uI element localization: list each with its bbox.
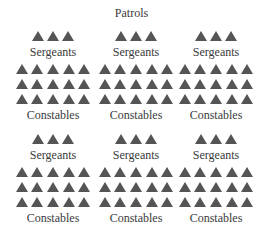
triangle-icon (210, 64, 222, 74)
patrol-group: SergeantsConstables (176, 31, 256, 121)
constables-label: Constables (176, 109, 256, 121)
sergeants-row (13, 134, 93, 145)
triangle-icon (16, 79, 28, 89)
constables-row (96, 167, 176, 178)
triangle-icon (31, 94, 43, 104)
triangle-icon (130, 134, 142, 144)
sergeants-row (176, 31, 256, 42)
triangle-icon (47, 31, 59, 41)
patrol-group: SergeantsConstables (13, 31, 93, 121)
triangle-icon (31, 79, 43, 89)
triangle-icon (47, 94, 59, 104)
triangle-icon (241, 167, 253, 177)
triangle-icon (63, 182, 75, 192)
constables-label: Constables (96, 212, 176, 224)
triangle-icon (47, 64, 59, 74)
triangle-icon (114, 79, 126, 89)
constables-row (96, 79, 176, 90)
triangle-icon (210, 79, 222, 89)
sergeants-row (96, 31, 176, 42)
constables-block (13, 64, 93, 105)
triangle-icon (146, 79, 158, 89)
sergeants-row (13, 31, 93, 42)
constables-row (176, 167, 256, 178)
triangle-icon (47, 79, 59, 89)
triangle-icon (16, 94, 28, 104)
triangle-icon (226, 94, 238, 104)
triangle-icon (32, 31, 44, 41)
triangle-icon (31, 197, 43, 207)
sergeants-row (176, 134, 256, 145)
constables-row (13, 167, 93, 178)
triangle-icon (16, 197, 28, 207)
patrol-group: SergeantsConstables (176, 134, 256, 224)
constables-label: Constables (96, 109, 176, 121)
constables-row (13, 64, 93, 75)
triangle-icon (78, 64, 90, 74)
triangle-icon (241, 79, 253, 89)
sergeants-label: Sergeants (176, 149, 256, 161)
triangle-icon (99, 79, 111, 89)
triangle-icon (146, 182, 158, 192)
constables-row (13, 182, 93, 193)
triangle-icon (114, 182, 126, 192)
triangle-icon (99, 94, 111, 104)
constables-row (96, 94, 176, 105)
triangle-icon (195, 31, 207, 41)
sergeants-label: Sergeants (13, 46, 93, 58)
triangle-icon (146, 197, 158, 207)
triangle-icon (78, 94, 90, 104)
triangle-icon (78, 182, 90, 192)
triangle-icon (145, 134, 157, 144)
triangle-icon (210, 94, 222, 104)
triangle-icon (146, 167, 158, 177)
triangle-icon (31, 182, 43, 192)
patrol-group: SergeantsConstables (96, 31, 176, 121)
triangle-icon (99, 167, 111, 177)
triangle-icon (62, 31, 74, 41)
triangle-icon (99, 182, 111, 192)
constables-row (96, 64, 176, 75)
triangle-icon (47, 167, 59, 177)
triangle-icon (114, 197, 126, 207)
triangle-icon (210, 182, 222, 192)
triangle-icon (32, 134, 44, 144)
triangle-icon (99, 197, 111, 207)
triangle-icon (241, 64, 253, 74)
triangle-icon (130, 182, 142, 192)
triangle-icon (146, 64, 158, 74)
triangle-icon (194, 197, 206, 207)
triangle-icon (226, 79, 238, 89)
triangle-icon (210, 167, 222, 177)
triangle-icon (161, 79, 173, 89)
constables-row (176, 182, 256, 193)
constables-row (176, 197, 256, 208)
constables-row (96, 182, 176, 193)
triangle-icon (179, 182, 191, 192)
triangle-icon (47, 182, 59, 192)
triangle-icon (78, 79, 90, 89)
triangle-icon (114, 94, 126, 104)
sergeants-row (96, 134, 176, 145)
triangle-icon (16, 167, 28, 177)
triangle-icon (63, 197, 75, 207)
triangle-icon (16, 64, 28, 74)
triangle-icon (161, 167, 173, 177)
triangle-icon (62, 134, 74, 144)
triangle-icon (146, 94, 158, 104)
triangle-icon (47, 197, 59, 207)
triangle-icon (226, 197, 238, 207)
sergeants-label: Sergeants (13, 149, 93, 161)
constables-label: Constables (13, 212, 93, 224)
triangle-icon (130, 31, 142, 41)
triangle-icon (179, 79, 191, 89)
triangle-icon (78, 197, 90, 207)
constables-label: Constables (176, 212, 256, 224)
sergeants-label: Sergeants (96, 149, 176, 161)
triangle-icon (194, 167, 206, 177)
triangle-icon (194, 79, 206, 89)
constables-row (13, 197, 93, 208)
triangle-icon (195, 134, 207, 144)
constables-block (176, 64, 256, 105)
constables-label: Constables (13, 109, 93, 121)
